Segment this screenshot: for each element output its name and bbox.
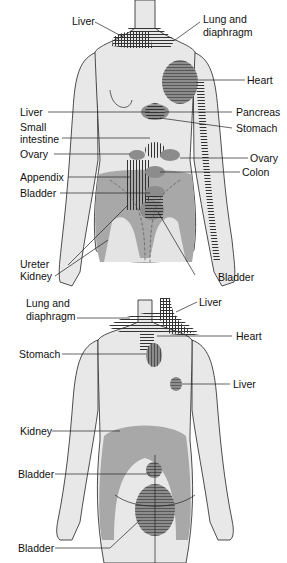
label-front-ureter: Ureter — [20, 259, 49, 270]
label-front-ovary-right: Ovary — [250, 153, 278, 164]
label-front-liver-top: Liver — [72, 16, 95, 27]
label-front-heart: Heart — [247, 75, 273, 86]
label-front-colon: Colon — [242, 167, 269, 178]
label-front-lung-line2: diaphragm — [203, 27, 253, 38]
front-body — [59, 0, 235, 286]
label-front-stomach: Stomach — [236, 123, 277, 134]
label-front-bladder-bottom: Bladder — [218, 272, 254, 283]
label-back-kidney: Kidney — [20, 426, 52, 437]
label-front-small-intestine-1: Small — [20, 122, 46, 133]
label-front-pancreas: Pancreas — [236, 107, 280, 118]
label-back-heart: Heart — [236, 331, 262, 342]
label-back-bladder-lower: Bladder — [18, 543, 54, 554]
label-back-stomach: Stomach — [19, 349, 60, 360]
label-back-lung-line1: Lung and — [26, 298, 70, 309]
label-front-small-intestine-2: intestine — [20, 134, 59, 145]
label-front-kidney: Kidney — [20, 271, 52, 282]
label-back-bladder-upper: Bladder — [18, 469, 54, 480]
label-back-liver-top: Liver — [199, 297, 222, 308]
label-front-lung-line1: Lung and — [203, 14, 247, 25]
label-back-lung-line2: diaphragm — [26, 311, 76, 322]
back-body — [57, 298, 234, 563]
label-front-liver-left: Liver — [20, 107, 43, 118]
label-front-appendix: Appendix — [20, 172, 64, 183]
label-front-bladder-left: Bladder — [20, 188, 56, 199]
label-back-liver-mid: Liver — [233, 379, 256, 390]
label-front-ovary-left: Ovary — [20, 149, 48, 160]
